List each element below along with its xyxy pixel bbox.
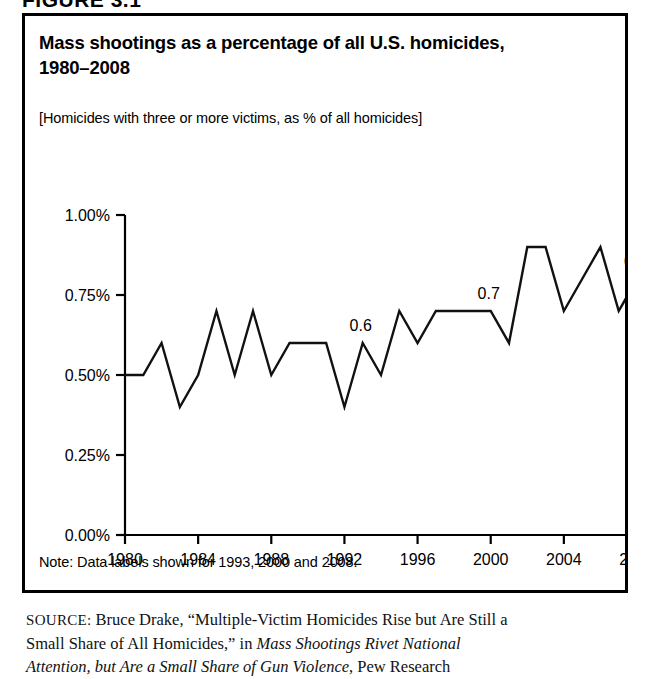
figure-box: Mass shootings as a percentage of all U.… — [22, 13, 628, 593]
figure-number-header: FIGURE 3.1 — [22, 0, 141, 8]
source-line3-italic: Attention, but Are a Small Share of Gun … — [26, 657, 349, 676]
y-tick-label: 0.25% — [65, 447, 110, 464]
data-labels: 0.60.70.8 — [350, 253, 625, 334]
y-tick-label: 1.00% — [65, 207, 110, 224]
y-axis-ticks: 0.00%0.25%0.50%0.75%1.00% — [65, 207, 125, 544]
line-chart-svg: 0.00%0.25%0.50%0.75%1.00% 19801984198819… — [25, 166, 625, 566]
source-label: SOURCE: — [26, 612, 91, 628]
y-tick-label: 0.75% — [65, 287, 110, 304]
chart-note: Note: Data labels shown for 1993, 2000 a… — [39, 554, 357, 570]
figure-page: FIGURE 3.1 Mass shootings as a percentag… — [0, 0, 650, 679]
data-point-label: 0.7 — [478, 285, 500, 302]
x-tick-label: 2008 — [619, 551, 625, 566]
data-point-label: 0.8 — [624, 253, 625, 270]
x-tick-label: 2004 — [546, 551, 582, 566]
source-line2-plain: Small Share of All Homicides,” in — [26, 634, 257, 653]
x-tick-label: 1996 — [400, 551, 436, 566]
data-series-line — [125, 247, 625, 407]
data-point-label: 0.6 — [350, 317, 372, 334]
chart-title-line2: 1980–2008 — [39, 57, 130, 78]
x-tick-label: 2000 — [473, 551, 509, 566]
y-tick-label: 0.00% — [65, 527, 110, 544]
chart-title: Mass shootings as a percentage of all U.… — [39, 30, 599, 80]
chart-subtitle: [Homicides with three or more victims, a… — [39, 110, 609, 126]
y-tick-label: 0.50% — [65, 367, 110, 384]
chart-plot-area: 0.00%0.25%0.50%0.75%1.00% 19801984198819… — [25, 166, 625, 566]
source-citation: SOURCE: Bruce Drake, “Multiple-Victim Ho… — [26, 608, 626, 678]
source-line2-italic: Mass Shootings Rivet National — [257, 634, 461, 653]
chart-title-line1: Mass shootings as a percentage of all U.… — [39, 32, 504, 53]
source-line3-plain: , Pew Research — [349, 657, 450, 676]
source-line1: Bruce Drake, “Multiple-Victim Homicides … — [91, 610, 507, 629]
